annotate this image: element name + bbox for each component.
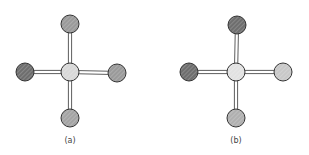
atom-top [228, 16, 246, 34]
atom-bottom [61, 109, 79, 127]
panel-a-label: (a) [64, 136, 75, 145]
atom-left [180, 63, 198, 81]
panel-b-label: (b) [230, 136, 241, 145]
atom-center [61, 63, 79, 81]
atom-bottom [227, 109, 245, 127]
atom-center [227, 63, 245, 81]
panel-b [180, 16, 292, 127]
atom-left [16, 63, 34, 81]
atom-right [274, 63, 292, 81]
atom-right [108, 64, 126, 82]
panel-a [16, 15, 126, 127]
molecule-diagram: (a) (b) [0, 0, 309, 155]
atom-top [61, 15, 79, 33]
